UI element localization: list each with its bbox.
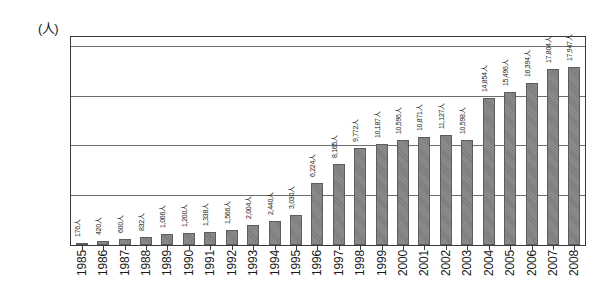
bar-value-label: 3,030人 — [288, 186, 295, 209]
x-tick-slot: 1993 — [242, 250, 263, 300]
bar — [76, 243, 88, 245]
x-tick-label: 1990 — [183, 250, 195, 276]
bar — [568, 67, 580, 245]
x-tick-label: 1986 — [97, 250, 109, 276]
x-tick-label: 1993 — [247, 250, 259, 276]
bar — [483, 98, 495, 245]
x-tick-label: 1999 — [376, 250, 388, 276]
x-tick-label: 2005 — [504, 250, 516, 276]
x-tick-label: 1997 — [333, 250, 345, 276]
x-tick-slot: 1985 — [71, 250, 92, 300]
x-tick-label: 1991 — [204, 250, 216, 276]
x-tick-slot: 2007 — [542, 250, 563, 300]
bar — [247, 225, 259, 245]
x-tick-slot: 1999 — [371, 250, 392, 300]
bar-value-label: 600人 — [117, 216, 124, 233]
bar-slot: 9,772人 — [349, 37, 370, 245]
bar-slot: 11,127人 — [435, 37, 456, 245]
x-tick-slot: 1996 — [307, 250, 328, 300]
x-tick-label: 1998 — [354, 250, 366, 276]
x-tick-label: 2006 — [526, 250, 538, 276]
x-tick-slot: 2008 — [564, 250, 585, 300]
bar — [354, 148, 366, 245]
bar-value-label: 2,004人 — [245, 196, 252, 219]
y-axis-unit-label: (人) — [38, 18, 58, 37]
bar — [547, 69, 559, 245]
bar-value-label: 1,200人 — [181, 204, 188, 227]
bar — [504, 92, 516, 245]
bar-value-label: 10,598人 — [459, 108, 466, 134]
bar-slot: 832人 — [135, 37, 156, 245]
bar-value-label: 10,596人 — [395, 108, 402, 134]
x-tick-slot: 1997 — [328, 250, 349, 300]
bar — [333, 164, 345, 245]
bar-slot: 176人 — [71, 37, 92, 245]
bar — [440, 135, 452, 245]
bar — [526, 83, 538, 245]
x-tick-label: 2000 — [397, 250, 409, 276]
bar — [311, 183, 323, 245]
x-tick-label: 2004 — [483, 250, 495, 276]
bar-value-label: 1,066人 — [159, 206, 166, 229]
bar-value-label: 15,496人 — [502, 59, 509, 85]
x-tick-slot: 2003 — [457, 250, 478, 300]
bar-value-label: 10,871人 — [416, 105, 423, 131]
bar — [161, 234, 173, 245]
x-tick-slot: 1991 — [200, 250, 221, 300]
bar-slot: 16,394人 — [521, 37, 542, 245]
x-tick-label: 1985 — [76, 250, 88, 276]
bar-slot: 1,338人 — [200, 37, 221, 245]
x-tick-slot: 1992 — [221, 250, 242, 300]
bar-slot: 14,854人 — [478, 37, 499, 245]
x-tick-label: 2001 — [418, 250, 430, 276]
x-tick-slot: 2002 — [435, 250, 456, 300]
x-tick-slot: 2005 — [499, 250, 520, 300]
x-tick-label: 2007 — [547, 250, 559, 276]
bar — [97, 241, 109, 245]
x-tick-label: 1992 — [226, 250, 238, 276]
x-tick-slot: 1990 — [178, 250, 199, 300]
bar-value-label: 6,224人 — [309, 155, 316, 178]
bar-value-label: 1,566人 — [224, 201, 231, 224]
bar-slot: 15,496人 — [499, 37, 520, 245]
bar-chart: (人) 20,000 15,000 10,000 5,000 0 176人420… — [0, 0, 599, 302]
bar — [204, 232, 216, 245]
x-tick-slot: 1998 — [349, 250, 370, 300]
bar-slot: 8,165人 — [328, 37, 349, 245]
x-tick-label: 1994 — [269, 250, 281, 276]
bar-value-label: 14,854人 — [481, 66, 488, 92]
bar — [140, 237, 152, 245]
bar-series: 176人420人600人832人1,066人1,200人1,338人1,566人… — [71, 37, 585, 245]
x-tick-slot: 1989 — [157, 250, 178, 300]
x-tick-slot: 2006 — [521, 250, 542, 300]
bar-value-label: 832人 — [138, 213, 145, 230]
bar — [183, 233, 195, 245]
bar-slot: 6,224人 — [307, 37, 328, 245]
bar-slot: 10,596人 — [392, 37, 413, 245]
bar-value-label: 176人 — [74, 220, 81, 237]
bar-value-label: 2,440人 — [267, 192, 274, 215]
bar-value-label: 10,187人 — [374, 112, 381, 138]
bar-slot: 600人 — [114, 37, 135, 245]
x-tick-label: 2002 — [440, 250, 452, 276]
bar-slot: 1,066人 — [157, 37, 178, 245]
bar — [376, 144, 388, 245]
bar-slot: 2,440人 — [264, 37, 285, 245]
bar-value-label: 16,394人 — [524, 50, 531, 76]
x-tick-label: 2003 — [461, 250, 473, 276]
bar-value-label: 1,338人 — [202, 203, 209, 226]
bar-slot: 10,187人 — [371, 37, 392, 245]
bar-slot: 1,200人 — [178, 37, 199, 245]
x-tick-slot: 1987 — [114, 250, 135, 300]
bar-slot: 1,566人 — [221, 37, 242, 245]
bar-value-label: 8,165人 — [331, 135, 338, 158]
bar-slot: 420人 — [92, 37, 113, 245]
bar-value-label: 420人 — [95, 217, 102, 234]
bar-slot: 17,804人 — [542, 37, 563, 245]
x-tick-label: 1988 — [140, 250, 152, 276]
bar-slot: 2,004人 — [242, 37, 263, 245]
bar — [226, 230, 238, 246]
bar — [119, 239, 131, 245]
x-axis: 1985198619871988198919901991199219931994… — [71, 250, 585, 300]
x-tick-label: 2008 — [568, 250, 580, 276]
